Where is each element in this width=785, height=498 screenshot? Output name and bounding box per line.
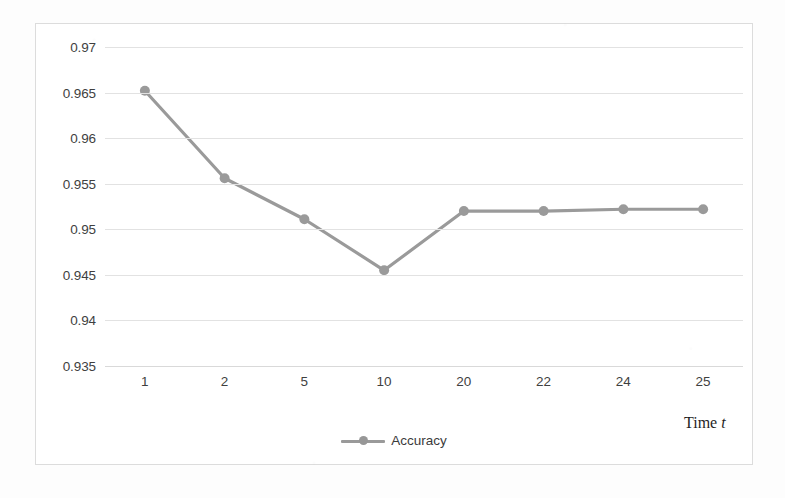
y-axis-tick-label: 0.95 xyxy=(70,222,96,237)
x-axis-tick-label: 1 xyxy=(141,374,149,389)
gridline xyxy=(105,138,743,139)
y-axis-tick-label: 0.965 xyxy=(63,85,96,100)
legend-label-accuracy: Accuracy xyxy=(391,433,447,448)
data-point-marker xyxy=(618,204,628,214)
x-axis-tick-label: 22 xyxy=(536,374,551,389)
x-axis-tick-label: 5 xyxy=(301,374,309,389)
legend-entry-accuracy[interactable]: Accuracy xyxy=(341,433,447,448)
gridline xyxy=(105,275,743,276)
x-axis-title-text: Time xyxy=(684,414,721,431)
y-axis-tick-label: 0.955 xyxy=(63,176,96,191)
legend-line-marker-icon xyxy=(341,434,385,448)
accuracy-markers xyxy=(140,86,708,276)
y-axis-tick-label: 0.945 xyxy=(63,267,96,282)
data-point-marker xyxy=(220,173,230,183)
data-point-marker xyxy=(299,214,309,224)
chart-legend: Accuracy xyxy=(36,433,752,448)
data-point-marker xyxy=(698,204,708,214)
y-axis-tick-label: 0.96 xyxy=(70,131,96,146)
data-point-marker xyxy=(379,265,389,275)
x-axis-title: Time t xyxy=(684,414,726,432)
x-axis-title-variable: t xyxy=(721,414,725,431)
data-point-marker xyxy=(539,206,549,216)
data-point-marker xyxy=(140,86,150,96)
gridline xyxy=(105,47,743,48)
x-axis-tick-label: 2 xyxy=(221,374,229,389)
plot-area: 0.970.9650.960.9550.950.9450.940.9351251… xyxy=(105,47,743,366)
scanned-page-background: 0.970.9650.960.9550.950.9450.940.9351251… xyxy=(0,0,785,498)
gridline xyxy=(105,320,743,321)
x-axis-tick-label: 25 xyxy=(696,374,711,389)
x-axis-tick-label: 24 xyxy=(616,374,631,389)
y-axis-tick-label: 0.94 xyxy=(70,313,96,328)
gridline xyxy=(105,366,743,367)
y-axis-tick-label: 0.97 xyxy=(70,40,96,55)
gridline xyxy=(105,184,743,185)
data-point-marker xyxy=(459,206,469,216)
x-axis-tick-label: 10 xyxy=(377,374,392,389)
gridline xyxy=(105,93,743,94)
accuracy-series-plot xyxy=(105,47,743,366)
gridline xyxy=(105,229,743,230)
chart-frame: 0.970.9650.960.9550.950.9450.940.9351251… xyxy=(35,23,753,465)
y-axis-tick-label: 0.935 xyxy=(63,359,96,374)
x-axis-tick-label: 20 xyxy=(456,374,471,389)
